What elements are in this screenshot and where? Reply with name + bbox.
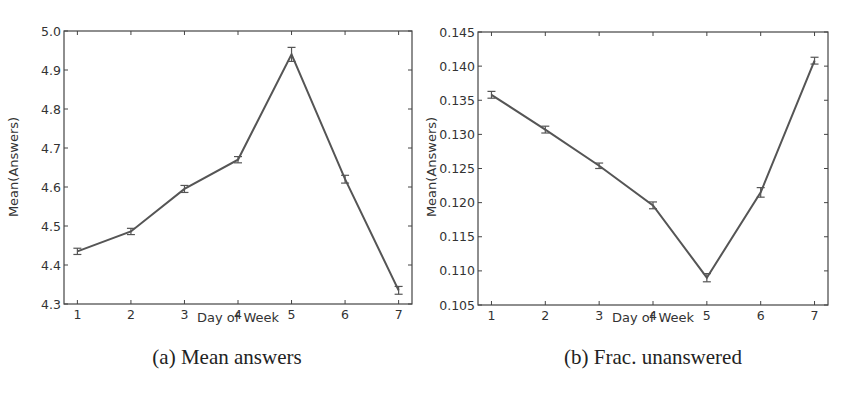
chart-panel-a: 12345674.34.44.54.64.74.84.95.0 Mean(Ans…	[0, 0, 424, 399]
y-tick-label: 4.7	[41, 141, 61, 156]
error-bar	[811, 57, 819, 64]
y-tick-label: 0.135	[439, 93, 475, 108]
x-tick-label: 3	[180, 307, 188, 322]
y-tick-label: 0.125	[439, 161, 475, 176]
x-tick-label: 7	[395, 307, 403, 322]
y-tick-label: 5.0	[41, 24, 61, 39]
y-tick-label: 4.6	[41, 180, 61, 195]
y-axis-label: Mean(Answers)	[6, 117, 21, 217]
x-tick-label: 3	[595, 308, 603, 323]
plot-frame	[478, 32, 828, 305]
y-tick-label: 4.5	[41, 219, 61, 234]
chart-panel-b: 12345670.1050.1100.1150.1200.1250.1300.1…	[424, 0, 848, 399]
x-tick-label: 5	[288, 307, 296, 322]
x-tick-label: 1	[487, 308, 495, 323]
x-axis-label: Day of Week	[612, 310, 694, 325]
x-tick-label: 1	[73, 307, 81, 322]
line-chart-mean-answers: 12345674.34.44.54.64.74.84.95.0	[0, 0, 424, 399]
plot-frame	[64, 31, 412, 304]
x-tick-label: 2	[127, 307, 135, 322]
y-axis-label: Mean(Answers)	[424, 117, 439, 217]
x-tick-label: 5	[703, 308, 711, 323]
figure-caption: (b) Frac. unanswered	[564, 345, 742, 370]
y-tick-label: 0.140	[439, 59, 475, 74]
y-tick-label: 0.115	[439, 229, 475, 244]
x-tick-label: 2	[541, 308, 549, 323]
y-tick-label: 4.8	[41, 102, 61, 117]
y-tick-label: 0.110	[439, 263, 475, 278]
y-tick-label: 0.105	[439, 298, 475, 313]
x-tick-label: 6	[757, 308, 765, 323]
x-tick-label: 7	[811, 308, 819, 323]
error-bar	[341, 175, 349, 183]
x-axis-label: Day of Week	[197, 310, 279, 325]
figure-caption: (a) Mean answers	[152, 345, 301, 370]
y-tick-label: 0.120	[439, 195, 475, 210]
data-line	[491, 61, 814, 278]
y-tick-label: 0.145	[439, 25, 475, 40]
y-tick-label: 4.3	[41, 297, 61, 312]
y-tick-label: 4.9	[41, 63, 61, 78]
y-tick-label: 4.4	[41, 258, 61, 273]
error-bar	[395, 286, 403, 294]
y-tick-label: 0.130	[439, 127, 475, 142]
data-line	[77, 54, 398, 290]
x-tick-label: 6	[341, 307, 349, 322]
line-chart-frac-unanswered: 12345670.1050.1100.1150.1200.1250.1300.1…	[424, 0, 848, 399]
